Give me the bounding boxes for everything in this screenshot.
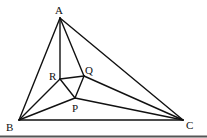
segment-CQ xyxy=(84,76,183,120)
segment-BP xyxy=(19,98,75,120)
label-C: C xyxy=(186,119,193,131)
label-A: A xyxy=(55,4,63,16)
label-B: B xyxy=(6,121,13,133)
segment-AQ xyxy=(60,18,84,76)
label-Q: Q xyxy=(85,64,93,76)
segment-AC xyxy=(60,18,183,120)
segment-PR xyxy=(60,79,75,98)
segment-RQ xyxy=(60,76,84,79)
segment-CP xyxy=(75,98,183,120)
segment-QP xyxy=(75,76,84,98)
label-P: P xyxy=(72,102,78,114)
segment-BR xyxy=(19,79,60,120)
segment-AB xyxy=(19,18,60,120)
label-R: R xyxy=(49,70,57,82)
triangle-diagram: A B C R Q P xyxy=(0,0,207,138)
